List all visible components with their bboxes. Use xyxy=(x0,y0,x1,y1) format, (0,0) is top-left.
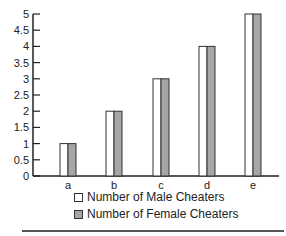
y-tick-label: 1.5 xyxy=(14,121,29,133)
legend-item-male: Number of Male Cheaters xyxy=(74,190,224,204)
bar-female-b xyxy=(114,111,122,176)
x-tick-label: e xyxy=(250,179,256,191)
legend-item-female: Number of Female Cheaters xyxy=(74,207,238,221)
y-tick-label: 2 xyxy=(23,105,29,117)
bar-female-e xyxy=(253,14,261,176)
y-tick-label: 0.5 xyxy=(14,154,29,166)
separator-line xyxy=(22,230,284,232)
bar-male-e xyxy=(245,14,253,176)
y-tick-label: 5 xyxy=(23,8,29,20)
bar-female-c xyxy=(161,79,169,176)
y-tick-label: 2.5 xyxy=(14,89,29,101)
x-tick-label: a xyxy=(65,179,72,191)
bar-male-b xyxy=(106,111,114,176)
y-tick-label: 3 xyxy=(23,73,29,85)
bar-female-a xyxy=(68,144,76,176)
legend-label-male: Number of Male Cheaters xyxy=(87,190,224,204)
y-tick-label: 4 xyxy=(23,40,29,52)
y-tick-label: 4.5 xyxy=(14,24,29,36)
bar-female-d xyxy=(207,46,215,176)
legend-label-female: Number of Female Cheaters xyxy=(87,207,238,221)
legend-swatch-female xyxy=(74,210,83,219)
bar-male-c xyxy=(153,79,161,176)
bar-male-a xyxy=(60,144,68,176)
y-tick-label: 0 xyxy=(23,170,29,182)
legend-swatch-male xyxy=(74,193,83,202)
y-tick-label: 3.5 xyxy=(14,57,29,69)
bar-male-d xyxy=(199,46,207,176)
y-tick-label: 1 xyxy=(23,138,29,150)
